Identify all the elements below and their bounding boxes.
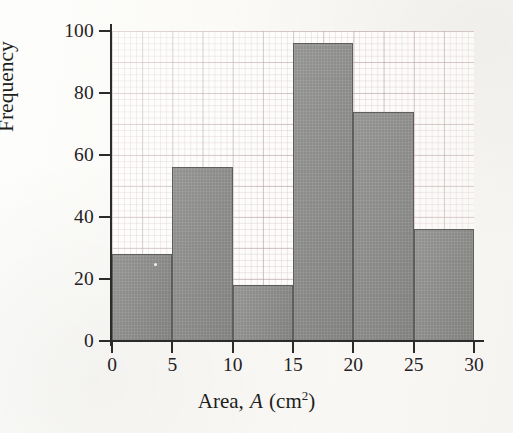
x-axis-tick-label: 0 [107,354,117,376]
y-axis-title: Frequency [0,0,19,132]
x-axis-tick-label: 25 [404,354,424,376]
y-axis-tick-label: 40 [0,206,94,228]
histogram-bar [112,254,172,341]
x-axis-title-units-close: ) [308,389,315,413]
x-axis-tick [111,342,113,353]
histogram-bar [172,167,232,341]
histogram-bar [414,229,474,341]
x-axis-title-variable: A [249,389,264,413]
x-axis-title-units-open: (cm [269,389,302,413]
y-axis-tick [99,278,110,280]
y-axis-tick-label: 20 [0,268,94,290]
x-axis-line [106,340,484,342]
y-axis-line [110,24,112,346]
histogram-figure: 020406080100 Frequency 051015202530 Area… [0,0,513,433]
y-axis-tick [99,154,110,156]
x-axis-tick-label: 20 [344,354,364,376]
x-axis-tick-label: 5 [167,354,177,376]
x-axis-tick-label: 30 [464,354,484,376]
x-axis-tick-label: 10 [223,354,243,376]
x-axis-tick [413,342,415,353]
y-axis-tick-label: 0 [0,330,94,352]
histogram-bar [293,43,353,341]
x-axis-title: Area, A (cm2) [0,388,513,414]
x-axis-tick [292,342,294,353]
y-axis-tick [99,30,110,32]
x-axis-tick [473,342,475,353]
plot-area [112,31,474,341]
y-axis-tick [99,92,110,94]
x-axis-tick-label: 15 [283,354,303,376]
y-axis-tick-label: 60 [0,144,94,166]
histogram-bar [233,285,293,341]
y-axis-tick [99,216,110,218]
x-axis-tick [232,342,234,353]
scan-speck [154,263,157,266]
x-axis-tick [352,342,354,353]
x-axis-title-prefix: Area, [198,389,244,413]
x-axis-tick [171,342,173,353]
histogram-bar [353,112,413,341]
